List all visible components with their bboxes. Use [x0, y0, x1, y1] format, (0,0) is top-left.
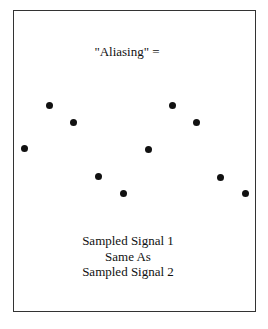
caption-line-3: Sampled Signal 2 — [0, 264, 268, 280]
diagram-title: "Aliasing" = — [0, 44, 268, 60]
caption-line-2: Same As — [0, 249, 268, 265]
sample-point — [193, 119, 200, 126]
title-text: "Aliasing" = — [94, 44, 159, 60]
sample-point — [70, 119, 77, 126]
sample-point — [95, 173, 102, 180]
sample-point — [169, 102, 176, 109]
sample-point — [145, 146, 152, 153]
sample-point — [242, 190, 249, 197]
sample-point — [120, 190, 127, 197]
caption-line-1: Sampled Signal 1 — [0, 233, 268, 249]
caption: Sampled Signal 1 Same As Sampled Signal … — [0, 233, 268, 280]
sample-point — [217, 174, 224, 181]
sample-point — [46, 102, 53, 109]
sample-point — [21, 145, 28, 152]
